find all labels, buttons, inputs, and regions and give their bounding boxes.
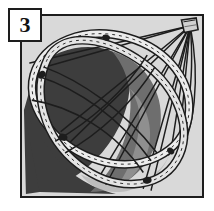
apex-node bbox=[181, 18, 198, 33]
step-number-label: 3 bbox=[20, 14, 31, 36]
illustration-panel bbox=[20, 14, 204, 198]
step-number-badge: 3 bbox=[8, 8, 42, 42]
figure-root: 3 bbox=[0, 0, 214, 211]
illustration-svg bbox=[22, 16, 202, 196]
